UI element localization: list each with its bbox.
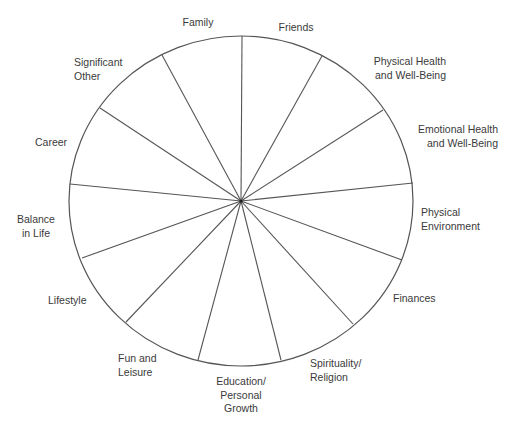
label-family: Family xyxy=(170,16,226,30)
label-spirituality: Spirituality/ Religion xyxy=(310,357,380,384)
label-friends: Friends xyxy=(266,21,326,35)
label-line: and Well-Being xyxy=(396,137,498,151)
label-line: Spirituality/ xyxy=(310,357,380,371)
label-line: Other xyxy=(74,70,144,84)
label-line: Balance xyxy=(10,213,62,227)
label-emotional-health: Emotional Health and Well-Being xyxy=(396,123,498,150)
label-line: Education/ xyxy=(205,375,277,389)
label-line: Growth xyxy=(205,402,277,416)
label-lifestyle: Lifestyle xyxy=(48,294,108,308)
label-line: and Well-Being xyxy=(346,69,446,83)
label-significant-other: Significant Other xyxy=(74,56,144,83)
label-physical-health: Physical Health and Well-Being xyxy=(346,55,446,82)
label-line: Religion xyxy=(310,371,380,385)
label-balance: Balance in Life xyxy=(10,213,62,240)
wheel-hub xyxy=(239,199,242,202)
label-finances: Finances xyxy=(393,292,453,306)
label-line: Fun and xyxy=(118,352,178,366)
label-line: in Life xyxy=(10,227,62,241)
label-line: Family xyxy=(170,16,226,30)
label-line: Career xyxy=(35,136,85,150)
label-line: Personal xyxy=(205,389,277,403)
label-line: Lifestyle xyxy=(48,294,108,308)
label-line: Physical xyxy=(421,206,511,220)
label-line: Physical Health xyxy=(346,55,446,69)
label-fun-leisure: Fun and Leisure xyxy=(118,352,178,379)
label-career: Career xyxy=(35,136,85,150)
label-line: Environment xyxy=(421,220,511,234)
label-line: Leisure xyxy=(118,366,178,380)
label-line: Finances xyxy=(393,292,453,306)
label-education: Education/ Personal Growth xyxy=(205,375,277,416)
label-physical-environment: Physical Environment xyxy=(421,206,511,233)
label-line: Emotional Health xyxy=(396,123,498,137)
label-line: Significant xyxy=(74,56,144,70)
label-line: Friends xyxy=(266,21,326,35)
